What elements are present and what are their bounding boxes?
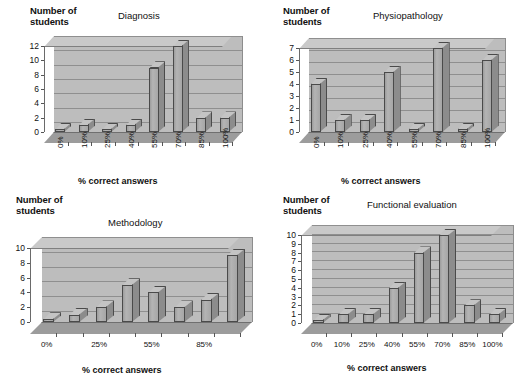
chart-panel-diagnosis: Number of students Diagnosis 0246810120%… xyxy=(0,0,263,196)
bar-side-face xyxy=(448,229,456,323)
y-tick-label: 1 xyxy=(274,309,296,319)
x-tick-label: 70% xyxy=(434,340,450,349)
x-tick-mark xyxy=(56,333,57,337)
bar xyxy=(149,68,159,133)
y-tick-label: 0 xyxy=(274,318,296,328)
y-tick-label: 6 xyxy=(17,84,39,94)
plot-floor xyxy=(301,323,513,334)
x-tick-label: 85% xyxy=(459,132,468,148)
x-tick-mark xyxy=(502,333,503,337)
y-tick-label: 5 xyxy=(272,67,294,77)
y-tick-connector xyxy=(299,110,309,120)
bar xyxy=(201,300,212,322)
y-tick-label: 7 xyxy=(272,43,294,53)
bar xyxy=(433,48,443,132)
gridline xyxy=(312,295,513,296)
y-tick-label: 10 xyxy=(274,230,296,240)
x-axis-title: % correct answers xyxy=(341,176,421,186)
y-axis-title: Number of students xyxy=(30,6,77,27)
x-tick-mark xyxy=(452,333,453,337)
gridline xyxy=(312,243,513,244)
y-tick-connector xyxy=(44,108,54,118)
chart-title: Functional evaluation xyxy=(367,199,457,210)
bar-side-face xyxy=(237,249,245,322)
y-tick-connector xyxy=(299,74,309,84)
x-tick-label: 70% xyxy=(174,132,183,148)
plot-wall-top-face xyxy=(44,36,232,47)
y-tick-label: 12 xyxy=(17,41,39,51)
y-tick-connector xyxy=(301,304,312,314)
x-tick-label: 10% xyxy=(334,340,350,349)
x-tick-label: 85% xyxy=(197,132,206,148)
y-tick-connector xyxy=(299,50,309,60)
y-tick-connector xyxy=(301,278,312,288)
bar-side-face xyxy=(398,282,406,323)
bar-side-face xyxy=(132,278,140,322)
bar xyxy=(489,314,500,323)
bar xyxy=(311,84,321,132)
gridline xyxy=(54,93,242,94)
y-tick-connector xyxy=(299,38,309,48)
bar-side-face xyxy=(158,61,165,132)
gridline xyxy=(42,281,252,282)
y-tick-connector xyxy=(30,281,42,292)
x-tick-label: 25% xyxy=(91,340,107,349)
x-tick-mark xyxy=(209,142,210,146)
x-tick-label: 25% xyxy=(361,132,370,148)
y-tick-connector xyxy=(301,234,312,244)
chart-panel-physiopathology: Number of students Physiopathology 01234… xyxy=(263,0,526,196)
bar-side-face xyxy=(182,40,189,132)
y-tick-label: 2 xyxy=(17,113,39,123)
x-tick-mark xyxy=(446,142,447,146)
y-tick-connector xyxy=(299,86,309,96)
y-axis-line xyxy=(30,248,31,322)
gridline xyxy=(309,62,505,63)
y-tick-connector xyxy=(299,62,309,72)
y-tick-label: 1 xyxy=(272,115,294,125)
y-tick-connector xyxy=(30,252,42,263)
chart-title: Physiopathology xyxy=(373,10,443,21)
y-tick-label: 10 xyxy=(17,55,39,65)
x-tick-mark xyxy=(422,142,423,146)
bar-side-face xyxy=(423,246,431,323)
y-tick-connector xyxy=(301,313,312,323)
gridline xyxy=(42,267,252,268)
x-tick-mark xyxy=(326,333,327,337)
x-tick-mark xyxy=(109,333,110,337)
gridline xyxy=(54,36,242,37)
x-tick-mark xyxy=(351,333,352,337)
x-tick-label: 100% xyxy=(482,340,502,349)
x-axis-title: % correct answers xyxy=(82,365,162,375)
x-tick-label: 40% xyxy=(385,132,394,148)
x-tick-label: 0% xyxy=(311,340,323,349)
y-tick-label: 4 xyxy=(17,98,39,108)
x-tick-label: 70% xyxy=(434,132,443,148)
gridline xyxy=(312,234,513,235)
gridline xyxy=(312,304,513,305)
x-tick-label: 40% xyxy=(384,340,400,349)
gridline xyxy=(312,251,513,252)
gridline xyxy=(312,225,513,226)
x-tick-label: 100% xyxy=(483,128,492,148)
gridline xyxy=(309,50,505,51)
y-tick-label: 8 xyxy=(17,70,39,80)
bar-side-face xyxy=(442,42,449,132)
y-tick-connector xyxy=(44,79,54,89)
x-tick-mark xyxy=(232,142,233,146)
y-tick-connector xyxy=(299,98,309,108)
x-tick-mark xyxy=(376,333,377,337)
gridline xyxy=(42,296,252,297)
x-tick-label: 85% xyxy=(196,340,212,349)
x-tick-mark xyxy=(427,333,428,337)
y-tick-label: 10 xyxy=(3,243,25,253)
gridline xyxy=(309,110,505,111)
y-axis-title: Number of students xyxy=(283,6,330,27)
bar xyxy=(173,46,183,132)
y-tick-label: 4 xyxy=(274,283,296,293)
y-tick-connector xyxy=(301,243,312,253)
x-tick-mark xyxy=(240,333,241,337)
y-tick-connector xyxy=(30,296,42,307)
bar xyxy=(439,235,450,323)
y-tick-label: 2 xyxy=(3,302,25,312)
chart-panel-functional-evaluation: Number of students Functional evaluation… xyxy=(263,195,526,391)
